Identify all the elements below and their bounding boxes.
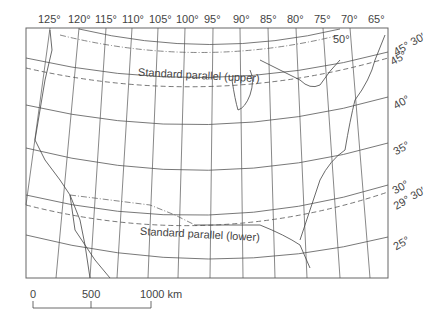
scale-label-1000: 1000 km [140, 288, 182, 300]
longitude-label: 90° [233, 13, 250, 25]
longitude-label: 105° [149, 13, 172, 25]
scale-label-500: 500 [82, 288, 100, 300]
longitude-label: 95° [204, 13, 221, 25]
map-canvas [0, 0, 443, 326]
longitude-label: 100° [176, 13, 199, 25]
standard-parallels [26, 58, 388, 226]
scale-bar [33, 301, 151, 308]
longitude-label: 80° [287, 13, 304, 25]
latitude-label: 50° [333, 33, 350, 45]
border-mexico [70, 195, 195, 225]
scale-label-0: 0 [30, 288, 36, 300]
longitude-label: 85° [260, 13, 277, 25]
longitude-label: 75° [314, 13, 331, 25]
map-frame [26, 28, 388, 278]
longitude-label: 70° [341, 13, 358, 25]
longitude-label: 125° [38, 13, 61, 25]
parallels [26, 29, 388, 259]
longitude-label: 110° [122, 13, 144, 25]
longitude-label: 65° [368, 13, 385, 25]
coastlines [35, 30, 385, 278]
longitude-label: 120° [68, 13, 91, 25]
meridians [26, 28, 370, 278]
longitude-label: 115° [95, 13, 117, 25]
